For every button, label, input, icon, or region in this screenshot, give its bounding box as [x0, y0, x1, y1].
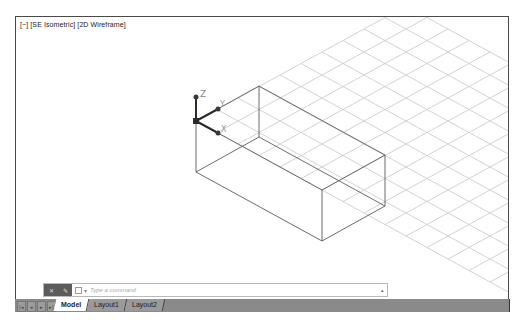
chevron-down-icon: ▾ [84, 287, 87, 294]
ucs-x-label: X [221, 125, 227, 134]
tab-label: Layout1 [94, 299, 119, 311]
box-wireframe [196, 86, 385, 241]
command-line[interactable]: ✕ ✎ ▾ Type a command ▴ [43, 283, 388, 297]
wrench-icon[interactable]: ✎ [63, 287, 68, 294]
chevron-up-icon[interactable]: ▴ [381, 284, 384, 296]
first-icon[interactable]: |◂ [17, 301, 26, 312]
command-prompt-icon[interactable] [75, 287, 82, 294]
tab-label: Model [61, 299, 81, 311]
tab-navigation: |◂ ◂ ▸ ▸| [17, 301, 56, 312]
command-line-buttons: ✕ ✎ [44, 284, 72, 296]
tab-layout1[interactable]: Layout1 [87, 299, 127, 311]
tab-label: Layout2 [132, 299, 157, 311]
tab-model[interactable]: Model [54, 299, 90, 311]
drawing-viewport[interactable]: Z Y X [−] [SE Isometric] [2D Wireframe] … [15, 16, 509, 300]
command-input[interactable]: Type a command [90, 287, 136, 293]
next-icon[interactable]: ▸ [37, 301, 46, 312]
model-space-canvas[interactable]: Z Y X [16, 17, 508, 299]
layout-tab-bar: |◂ ◂ ▸ ▸| Model Layout1 Layout2 [15, 299, 510, 312]
prev-icon[interactable]: ◂ [27, 301, 36, 312]
ucs-z-label: Z [200, 89, 206, 99]
close-icon[interactable]: ✕ [49, 287, 54, 294]
tab-layout2[interactable]: Layout2 [125, 299, 165, 311]
viewport-controls-label[interactable]: [−] [SE Isometric] [2D Wireframe] [20, 21, 126, 28]
grid [196, 17, 508, 299]
command-prompt[interactable]: ▾ [75, 287, 87, 294]
ucs-y-label: Y [219, 100, 225, 109]
